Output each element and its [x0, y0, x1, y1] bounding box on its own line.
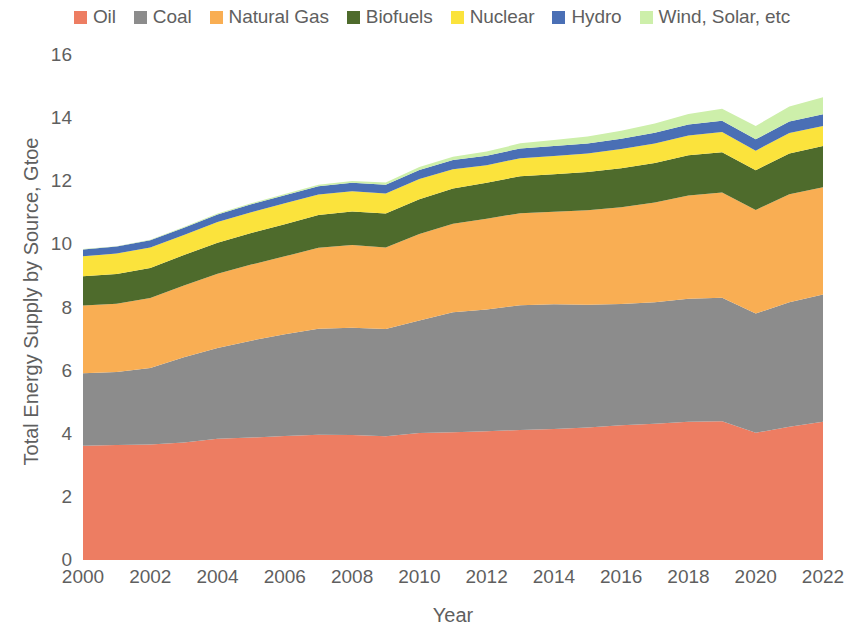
- y-axis-tick-labels: 1614121086420: [28, 0, 72, 644]
- y-tick-label: 12: [32, 170, 72, 192]
- legend-swatch-icon: [74, 11, 87, 24]
- energy-supply-area-chart: OilCoalNatural GasBiofuelsNuclearHydroWi…: [0, 0, 864, 644]
- y-tick-label: 2: [32, 486, 72, 508]
- legend-label: Oil: [93, 6, 116, 28]
- legend-swatch-icon: [134, 11, 147, 24]
- stacked-area-svg: [83, 55, 823, 560]
- legend-item-nuclear[interactable]: Nuclear: [451, 6, 535, 28]
- legend-label: Natural Gas: [229, 6, 329, 28]
- chart-legend: OilCoalNatural GasBiofuelsNuclearHydroWi…: [0, 0, 864, 34]
- x-tick-label: 2008: [317, 566, 387, 588]
- legend-label: Hydro: [571, 6, 621, 28]
- x-tick-label: 2020: [721, 566, 791, 588]
- x-axis-title: Year: [83, 604, 823, 627]
- legend-swatch-icon: [451, 11, 464, 24]
- y-tick-label: 10: [32, 233, 72, 255]
- area-band-oil: [83, 421, 823, 560]
- legend-swatch-icon: [347, 11, 360, 24]
- x-tick-label: 2000: [48, 566, 118, 588]
- x-tick-label: 2016: [586, 566, 656, 588]
- legend-item-oil[interactable]: Oil: [74, 6, 116, 28]
- plot-area: [83, 55, 823, 560]
- legend-item-hydro[interactable]: Hydro: [552, 6, 621, 28]
- legend-swatch-icon: [210, 11, 223, 24]
- legend-label: Biofuels: [366, 6, 433, 28]
- x-tick-label: 2018: [653, 566, 723, 588]
- y-tick-label: 4: [32, 423, 72, 445]
- x-tick-label: 2004: [183, 566, 253, 588]
- legend-swatch-icon: [640, 11, 653, 24]
- x-tick-label: 2022: [788, 566, 858, 588]
- legend-item-biofuels[interactable]: Biofuels: [347, 6, 433, 28]
- legend-item-coal[interactable]: Coal: [134, 6, 192, 28]
- y-tick-label: 8: [32, 297, 72, 319]
- legend-swatch-icon: [552, 11, 565, 24]
- legend-item-wind-solar-etc[interactable]: Wind, Solar, etc: [640, 6, 790, 28]
- y-tick-label: 16: [32, 44, 72, 66]
- y-tick-label: 6: [32, 360, 72, 382]
- y-tick-label: 14: [32, 107, 72, 129]
- legend-label: Nuclear: [470, 6, 535, 28]
- legend-item-natural-gas[interactable]: Natural Gas: [210, 6, 329, 28]
- x-tick-label: 2010: [384, 566, 454, 588]
- x-tick-label: 2012: [452, 566, 522, 588]
- x-tick-label: 2014: [519, 566, 589, 588]
- x-tick-label: 2002: [115, 566, 185, 588]
- legend-label: Wind, Solar, etc: [659, 6, 790, 28]
- x-tick-label: 2006: [250, 566, 320, 588]
- legend-label: Coal: [153, 6, 192, 28]
